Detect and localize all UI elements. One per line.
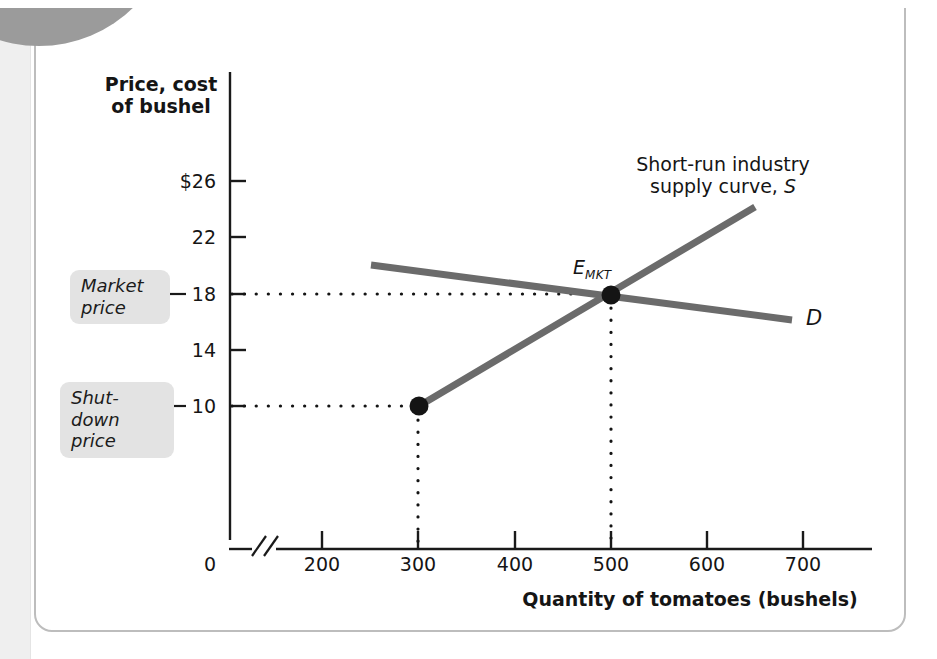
- y-tick-label-26: $26: [136, 170, 216, 192]
- supply-curve-annotation-line2: supply curve, S: [578, 175, 868, 197]
- callout-market-price-line1: Market: [81, 275, 159, 297]
- equilibrium-point-dot: [602, 286, 621, 305]
- x-tick-label-700: 700: [763, 553, 843, 575]
- supply-curve-annotation: Short-run industry supply curve, S: [578, 153, 868, 198]
- equilibrium-label-symbol: E: [573, 256, 585, 278]
- x-axis-ticks: [322, 531, 803, 549]
- y-tick-label-22: 22: [136, 226, 216, 248]
- y-axis-title-line1: Price, cost: [96, 73, 226, 95]
- callout-shutdown-price-line2: price: [71, 430, 163, 452]
- x-tick-label-400: 400: [475, 553, 555, 575]
- equilibrium-label-subscript: MKT: [585, 268, 611, 282]
- y-axis-title-line2: of bushel: [96, 95, 226, 117]
- axis-break-slash-1: [252, 536, 266, 556]
- origin-label: 0: [190, 553, 230, 575]
- supply-curve-annotation-line1: Short-run industry: [578, 153, 868, 175]
- shutdown-point-dot: [410, 397, 429, 416]
- demand-curve-label: D: [806, 306, 822, 331]
- callout-market-price-line2: price: [81, 297, 159, 319]
- y-tick-label-14: 14: [136, 339, 216, 361]
- equilibrium-point-label: EMKT: [573, 256, 611, 282]
- supply-curve-symbol: S: [784, 175, 796, 197]
- x-tick-label-200: 200: [282, 553, 362, 575]
- callout-shutdown-price: Shut-down price: [60, 382, 174, 458]
- x-tick-label-600: 600: [667, 553, 747, 575]
- x-axis-title: Quantity of tomatoes (bushels): [490, 588, 890, 610]
- figure-screenshot: Price, cost of bushel $26 22 18 14 10 0 …: [0, 0, 937, 659]
- supply-curve-annotation-text: supply curve,: [650, 175, 778, 197]
- callout-shutdown-price-line1: Shut-down: [71, 387, 163, 430]
- x-tick-label-300: 300: [378, 553, 458, 575]
- x-tick-label-500: 500: [571, 553, 651, 575]
- callout-market-price: Market price: [70, 270, 170, 324]
- chart-axes: [229, 72, 872, 556]
- axis-break-slash-2: [264, 536, 278, 556]
- reference-lines: [232, 294, 611, 548]
- y-axis-title: Price, cost of bushel: [96, 73, 226, 118]
